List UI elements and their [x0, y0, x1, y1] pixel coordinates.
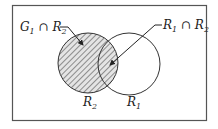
set-r2 [58, 33, 118, 93]
label-r2: R2 [82, 95, 97, 111]
svg-text:G1 ∩ R2: G1 ∩ R2 [20, 20, 67, 36]
svg-text:R1 ∩ R2: R1 ∩ R2 [162, 18, 209, 34]
label-r1: R1 [126, 95, 141, 111]
venn-diagram: G1 ∩ R2 R1 ∩ R2 R2 R1 [0, 0, 218, 129]
